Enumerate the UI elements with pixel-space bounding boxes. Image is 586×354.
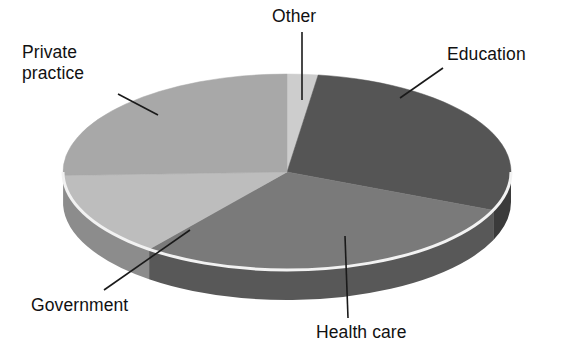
pie-slice-private-practice[interactable]: [63, 74, 287, 175]
pie-chart-figure: Employment sector distribution Private p…: [0, 0, 586, 354]
pie-chart-canvas: [0, 0, 586, 354]
